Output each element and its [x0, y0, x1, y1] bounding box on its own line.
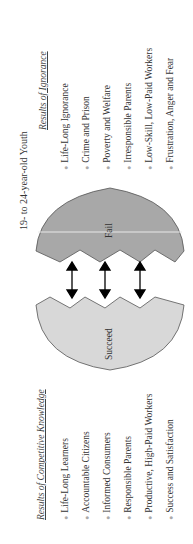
- ignorance-item: ●Crime and Prison: [81, 96, 91, 170]
- double-arrow-icon: [67, 262, 145, 298]
- knowledge-item: ●Life-Long Learners: [60, 438, 70, 520]
- fail-label: Fail: [104, 223, 114, 238]
- knowledge-item: ●Accountable Citizens: [81, 431, 91, 520]
- knowledge-item: ●Success and Satisfaction: [165, 419, 175, 520]
- knowledge-item: ●Productive, High-Paid Workers: [144, 394, 154, 520]
- ignorance-item: ●Frustration, Anger and Fear: [165, 58, 175, 170]
- ignorance-item: ●Life-Long Ignorance: [60, 83, 70, 170]
- ignorance-item: ●Poverty and Welfare: [102, 85, 112, 170]
- knowledge-item: ●Responsible Parents: [123, 436, 133, 520]
- ignorance-item: ●Low-Skill, Low-Paid Workers: [144, 48, 154, 170]
- diagram-title: 19- to 24-year-old Youth: [18, 131, 29, 230]
- ignorance-item: ●Irresponsible Parents: [123, 83, 133, 170]
- knowledge-item: ●Informed Consumers: [102, 432, 112, 520]
- knowledge-heading: Results of Competitive Knowledge: [36, 389, 46, 520]
- ignorance-heading: Results of Ignorance: [38, 51, 48, 130]
- succeed-label: Succeed: [104, 328, 114, 360]
